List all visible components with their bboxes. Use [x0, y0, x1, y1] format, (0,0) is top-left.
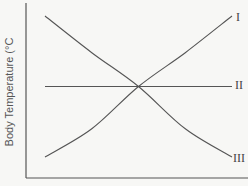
line-chart: I II III — [0, 0, 248, 186]
series-label-II: II — [235, 78, 243, 92]
y-axis-label: Body Temperature (°C — [3, 32, 17, 152]
series-label-III: III — [233, 151, 245, 165]
series-label-I: I — [236, 10, 240, 24]
